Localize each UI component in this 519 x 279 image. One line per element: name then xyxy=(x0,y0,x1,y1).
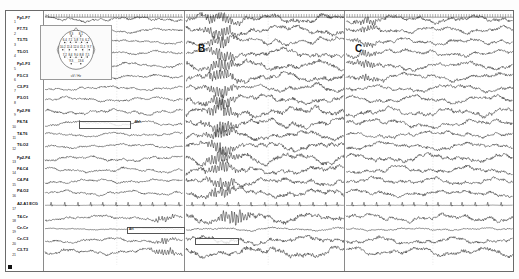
channel-label[interactable]: T6-O2 xyxy=(17,143,43,147)
channel-label[interactable]: A2-A1 ECG xyxy=(17,202,43,206)
row-number: 4 xyxy=(7,55,16,58)
svg-text:5.8: 5.8 xyxy=(74,38,78,42)
row-number: 21 xyxy=(7,254,16,257)
svg-text:8.1: 8.1 xyxy=(79,32,83,36)
row-number: 7 xyxy=(7,90,16,93)
channel-label[interactable]: P3-O1 xyxy=(17,96,43,100)
head-map-canvas: 9.38.16.47.15.87.66.210.211.412.011.19.7… xyxy=(41,26,111,78)
row-number: 17 xyxy=(7,208,16,211)
svg-text:11.1: 11.1 xyxy=(80,45,86,49)
svg-text:9.0: 9.0 xyxy=(74,53,78,57)
channel-label[interactable]: Fp2-F8 xyxy=(17,109,43,113)
channel-label[interactable]: T4-T6 xyxy=(17,132,43,136)
channel-label[interactable]: Cz-Cz xyxy=(17,226,43,230)
svg-text:9.7: 9.7 xyxy=(87,45,91,49)
svg-text:9.3: 9.3 xyxy=(69,32,73,36)
row-number: 11 xyxy=(7,137,16,140)
annotation-label-artifact: Art xyxy=(129,228,134,231)
row-number: 5 xyxy=(7,68,16,71)
row-number: 18 xyxy=(7,220,16,223)
row-number: 10 xyxy=(7,126,16,129)
row-number: 6 xyxy=(7,79,16,82)
svg-text:7.5: 7.5 xyxy=(85,53,89,57)
row-number: 9 xyxy=(7,114,16,117)
svg-text:6.4: 6.4 xyxy=(63,38,67,42)
annotation-box-burst[interactable] xyxy=(195,238,239,245)
row-number: 13 xyxy=(7,161,16,164)
eeg-trace-canvas xyxy=(345,11,513,271)
recording-frame: 1Fp1-F72F7-T33T3-T54T5-O15Fp1-F36F3-C37C… xyxy=(5,10,514,272)
row-number: 16 xyxy=(7,195,16,198)
channel-label[interactable]: T4-Cz xyxy=(17,215,43,219)
svg-text:9.3: 9.3 xyxy=(69,59,73,63)
eeg-panel-c[interactable] xyxy=(344,11,513,271)
channel-label[interactable]: Fp1-F7 xyxy=(17,16,43,20)
svg-text:6.2: 6.2 xyxy=(85,38,89,42)
channel-label[interactable]: F4-C4 xyxy=(17,167,43,171)
channel-label[interactable]: C4-P4 xyxy=(17,178,43,182)
row-number: 15 xyxy=(7,184,16,187)
eeg-panel-b[interactable] xyxy=(184,11,344,271)
annotation-label-movement: Mvt xyxy=(135,121,141,124)
topographic-head-map[interactable]: 9.38.16.47.15.87.66.210.211.412.011.19.7… xyxy=(40,25,112,80)
channel-label[interactable]: Cz-C3 xyxy=(17,237,43,241)
row-number: 2 xyxy=(7,33,16,36)
channel-label[interactable]: Fp2-F4 xyxy=(17,156,43,160)
head-map-caption: uV / Hz xyxy=(41,75,111,78)
row-number: 3 xyxy=(7,44,16,47)
channel-label[interactable]: P4-O2 xyxy=(17,189,43,193)
svg-text:12.0: 12.0 xyxy=(73,45,79,49)
row-number: 12 xyxy=(7,148,16,151)
channel-label[interactable]: C3-P3 xyxy=(17,85,43,89)
row-number: 20 xyxy=(7,243,16,246)
annotation-box-movement[interactable] xyxy=(79,121,131,130)
row-number: 14 xyxy=(7,172,16,175)
annotation-box-artifact[interactable] xyxy=(127,227,185,235)
section-label-c: C xyxy=(355,43,362,54)
svg-text:8.4: 8.4 xyxy=(68,53,72,57)
channel-label[interactable]: C3-T3 xyxy=(17,248,43,252)
channel-label[interactable]: F8-T4 xyxy=(17,120,43,124)
eeg-trace-canvas xyxy=(185,11,344,271)
selection-marker[interactable] xyxy=(8,265,12,269)
eeg-viewer: 1Fp1-F72F7-T33T3-T54T5-O15Fp1-F36F3-C37C… xyxy=(0,0,519,279)
row-number: 8 xyxy=(7,102,16,105)
row-number: 19 xyxy=(7,231,16,234)
channel-label-gutter: 1Fp1-F72F7-T33T3-T54T5-O15Fp1-F36F3-C37C… xyxy=(6,11,44,271)
section-label-b: B xyxy=(198,43,205,54)
row-number: 1 xyxy=(7,21,16,24)
